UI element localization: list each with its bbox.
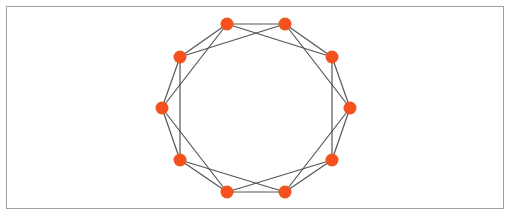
graph-edge: [227, 160, 332, 192]
graph-edge: [332, 57, 350, 108]
graph-node: [156, 102, 169, 115]
graph-node: [326, 154, 339, 167]
graph-edge: [285, 160, 332, 192]
graph-node: [221, 18, 234, 31]
graph-node: [279, 186, 292, 199]
graph-edge: [162, 108, 180, 160]
graph-edge: [180, 160, 227, 192]
graph-edge: [285, 24, 350, 108]
graph-edge: [285, 24, 332, 57]
graph-node: [221, 186, 234, 199]
graph-node: [174, 154, 187, 167]
graph-edge: [162, 108, 227, 192]
graph-edge: [162, 24, 227, 108]
node-group: [156, 18, 357, 199]
graph-edge: [180, 160, 285, 192]
edge-group: [162, 24, 350, 192]
graph-edge: [180, 24, 285, 57]
graph-node: [344, 102, 357, 115]
graph-edge: [162, 57, 180, 108]
graph-edge: [227, 24, 332, 57]
graph-edge: [285, 108, 350, 192]
graph-node: [326, 51, 339, 64]
graph-edge: [332, 108, 350, 160]
graph-node: [174, 51, 187, 64]
graph-canvas: [0, 0, 512, 218]
graph-edge: [180, 24, 227, 57]
graph-node: [279, 18, 292, 31]
